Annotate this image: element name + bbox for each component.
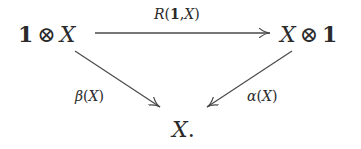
morphism-beta: β	[75, 88, 83, 104]
object-x: X	[280, 22, 296, 47]
label-r-one-x: R(1,X)	[154, 7, 200, 21]
unit-arg: 1	[170, 6, 180, 22]
label-beta-x: β(X)	[75, 89, 104, 103]
paren-close: )	[272, 88, 277, 104]
x-arg: X	[262, 88, 272, 104]
period: .	[188, 117, 195, 142]
tensor-symbol: ⊗	[296, 22, 322, 47]
object-x: X	[172, 117, 188, 142]
x-arg: X	[184, 6, 194, 22]
node-x: X.	[172, 119, 195, 141]
x-arg: X	[89, 88, 99, 104]
node-one-tensor-x: 1⊗X	[18, 23, 75, 46]
unit-object: 1	[322, 21, 337, 47]
paren-close: )	[99, 88, 104, 104]
paren-close: )	[194, 6, 199, 22]
node-x-tensor-one: X⊗1	[280, 23, 337, 46]
label-alpha-x: α(X)	[247, 89, 277, 103]
unit-object: 1	[18, 21, 33, 47]
object-x: X	[60, 22, 76, 47]
tensor-symbol: ⊗	[33, 22, 59, 47]
commutative-diagram: 1⊗X X⊗1 X. R(1,X) β(X) α(X)	[0, 0, 361, 149]
morphism-r: R	[154, 6, 165, 22]
